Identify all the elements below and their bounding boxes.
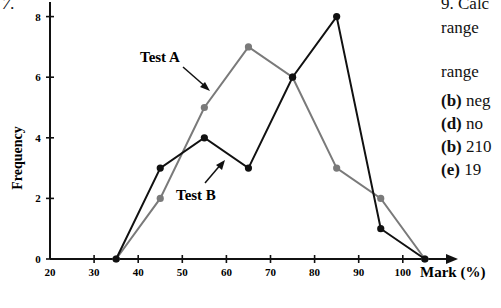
x-tick-label: 50 [177,266,189,278]
data-point [245,165,252,172]
data-point [157,195,164,202]
x-tick-label: 100 [395,266,412,278]
y-tick-label: 8 [35,11,41,23]
side-text-line: (b) neg [441,91,491,111]
annotation-test-a: Test A [140,49,180,65]
y-tick-label: 6 [35,71,41,83]
side-text-line: range [441,18,479,38]
x-tick-label: 90 [353,266,365,278]
data-point [333,165,340,172]
side-text-line: (b) 210 [441,137,492,157]
side-text-line: 9. Calc [441,0,489,14]
data-point [245,43,252,50]
side-text-line: (e) 19 [441,160,481,180]
side-text-line: (d) no [441,114,483,134]
data-point [201,134,208,141]
x-tick-label: 40 [133,266,145,278]
x-axis-label: Mark (%) [420,264,485,281]
data-point [377,195,384,202]
y-axis-label: Frequency [10,126,25,190]
data-point [113,255,120,262]
x-tick-label: 80 [309,266,321,278]
data-point [421,255,428,262]
side-text-line: range [441,62,479,82]
y-tick-label: 4 [35,132,41,144]
y-tick-label: 2 [35,192,41,204]
data-point [333,13,340,20]
y-tick-label: 0 [35,253,41,265]
data-point [289,74,296,81]
x-tick-label: 30 [89,266,101,278]
x-tick-label: 60 [221,266,233,278]
x-axis-arrow-icon [446,254,458,264]
data-point [201,104,208,111]
x-tick-label: 20 [45,266,57,278]
annotation-test-b: Test B [176,187,216,203]
data-point [157,165,164,172]
frequency-polygon-chart: 024682030405060708090100FrequencyMark (%… [0,0,501,308]
data-point [377,225,384,232]
x-tick-label: 70 [265,266,277,278]
